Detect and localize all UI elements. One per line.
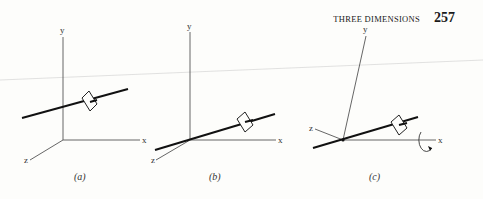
y-label: y [187, 21, 192, 31]
x-label: x [438, 135, 443, 145]
figure-b: y x z (b) [151, 21, 283, 183]
caption-c: (c) [369, 171, 381, 183]
y-label: y [363, 24, 368, 34]
caption-b: (b) [209, 171, 221, 183]
rotation-arrow-icon [419, 132, 432, 152]
y-label: y [60, 25, 65, 35]
z-label: z [24, 155, 28, 165]
caption-a: (a) [74, 171, 86, 183]
x-label: x [278, 135, 283, 145]
thick-line [22, 89, 128, 118]
figure-c: y x z (c) [309, 24, 443, 183]
x-label: x [142, 135, 147, 145]
z-axis [156, 140, 190, 160]
thick-line [155, 114, 275, 150]
figure-set: y x z (a) y x z (b) y x z (c) [0, 0, 483, 199]
z-label: z [309, 123, 313, 133]
figure-a: y x z (a) [22, 25, 147, 183]
z-label: z [151, 155, 155, 165]
y-axis [343, 36, 366, 140]
scan-artifact-line [0, 60, 483, 80]
z-axis [315, 129, 343, 140]
z-axis [30, 140, 63, 160]
